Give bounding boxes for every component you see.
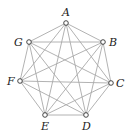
edge-C-F (20, 81, 111, 83)
vertex-label-B: B (108, 36, 117, 49)
vertex-F (18, 79, 23, 84)
complete-graph-diagram: ABCDEFG (0, 0, 132, 136)
edge-D-F (20, 81, 86, 115)
vertex-label-G: G (14, 36, 23, 49)
vertex-label-C: C (116, 77, 125, 90)
vertex-A (64, 21, 69, 26)
vertex-label-A: A (61, 6, 70, 19)
vertex-C (109, 81, 114, 86)
vertex-label-D: D (81, 120, 91, 133)
graph-vertices (18, 21, 114, 118)
vertex-G (27, 40, 32, 45)
edge-A-G (29, 23, 66, 42)
edge-C-G (29, 42, 111, 83)
edge-D-G (29, 42, 86, 115)
vertex-label-E: E (40, 120, 49, 133)
vertex-label-F: F (6, 75, 15, 88)
vertex-D (84, 113, 89, 118)
graph-edges (20, 23, 111, 115)
edge-A-B (66, 23, 103, 42)
edge-B-F (20, 42, 103, 81)
vertex-B (101, 40, 106, 45)
vertex-E (43, 113, 48, 118)
